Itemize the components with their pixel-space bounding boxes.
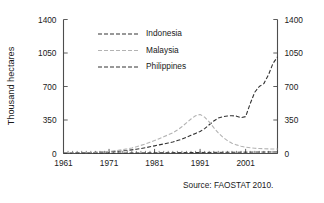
x-axis-tick-label: 1981 [145,158,164,168]
x-axis-tick-label: 2001 [236,158,255,168]
y-axis-right-tick-labels: 035070010501400 [285,15,304,159]
chart-figure: 19611971198119912001 035070010501400 035… [0,0,324,203]
chart-legend: IndonesiaMalaysiaPhilippines [98,28,186,71]
y-axis-left-tick-label: 350 [43,115,57,125]
y-axis-left-ticks [64,20,68,154]
y-axis-left-tick-label: 0 [52,149,57,159]
data-series-group [64,57,278,154]
legend-label-philippines: Philippines [146,61,186,71]
x-axis-tick-label: 1971 [100,158,119,168]
y-axis-right-tick-label: 1050 [285,48,304,58]
series-line-malaysia [64,114,278,153]
y-axis-right-tick-label: 1400 [285,15,304,25]
y-axis-left-tick-labels: 035070010501400 [38,15,57,159]
series-line-indonesia [64,57,278,153]
legend-label-malaysia: Malaysia [146,45,179,55]
source-annotation: Source: FAOSTAT 2010. [183,180,273,190]
x-axis-tick-labels: 19611971198119912001 [54,158,255,168]
x-axis-tick-label: 1961 [54,158,73,168]
y-axis-right-tick-label: 350 [285,115,299,125]
x-axis-tick-label: 1991 [191,158,210,168]
line-chart: 19611971198119912001 035070010501400 035… [0,0,324,203]
y-axis-right-ticks [273,20,277,154]
legend-label-indonesia: Indonesia [146,28,182,38]
y-axis-left-tick-label: 1050 [38,48,57,58]
y-axis-right-tick-label: 0 [285,149,290,159]
y-axis-title: Thousand hectares [6,46,16,125]
y-axis-right-tick-label: 700 [285,82,299,92]
y-axis-left-tick-label: 1400 [38,15,57,25]
y-axis-left-tick-label: 700 [43,82,57,92]
